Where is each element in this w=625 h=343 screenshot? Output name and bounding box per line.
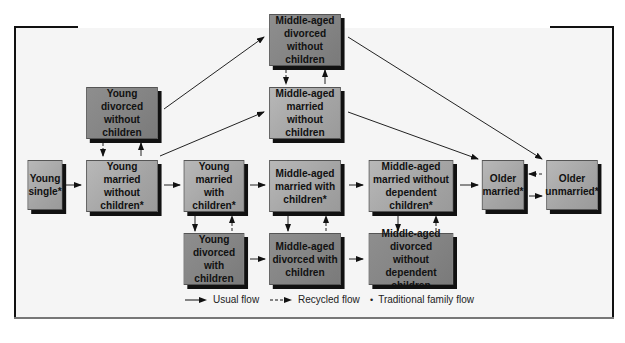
node-middle-aged-divorced-without-dependent-children: Middle-aged divorced without dependent c… bbox=[369, 233, 454, 285]
arrow-mamwoc-to-older-married bbox=[348, 112, 478, 159]
arrow-madwoc-to-older-unmarried bbox=[348, 37, 542, 159]
node-young-divorced-without-children: Young divorced without children bbox=[86, 87, 158, 139]
dashed-arrow-icon bbox=[270, 296, 292, 304]
legend-usual-flow: Usual flow bbox=[185, 294, 259, 305]
solid-arrow-icon bbox=[185, 296, 207, 304]
node-middle-aged-married-without-children: Middle-aged married without children bbox=[269, 87, 341, 139]
legend-recycled-flow-label: Recycled flow bbox=[298, 294, 360, 305]
node-young-divorced-with-children: Young divorced with children bbox=[184, 233, 245, 285]
node-middle-aged-divorced-with-children: Middle-aged divorced with children bbox=[269, 233, 341, 285]
node-middle-aged-divorced-without-children: Middle-aged divorced without children bbox=[269, 14, 341, 66]
arrow-ydwoc-to-madwoc bbox=[164, 37, 264, 109]
node-middle-aged-married-with-children: Middle-aged married with children* bbox=[269, 160, 341, 212]
node-middle-aged-married-without-dependent-children: Middle-aged married without dependent ch… bbox=[369, 160, 454, 212]
node-young-married-with-children: Young married with children* bbox=[184, 160, 245, 212]
node-older-unmarried: Older unmarried* bbox=[546, 160, 598, 210]
arrow-ymwoc-to-mamwoc bbox=[160, 112, 264, 156]
legend-recycled-flow: Recycled flow bbox=[270, 294, 360, 305]
legend-usual-flow-label: Usual flow bbox=[213, 294, 259, 305]
node-young-married-without-children: Young married without children* bbox=[86, 160, 158, 212]
legend-traditional-flow: • Traditional family flow bbox=[370, 294, 474, 305]
traditional-marker-icon: • bbox=[370, 295, 373, 305]
node-older-married: Older married* bbox=[482, 160, 524, 210]
legend-traditional-flow-label: Traditional family flow bbox=[378, 294, 474, 305]
node-young-single: Young single* bbox=[28, 160, 63, 210]
